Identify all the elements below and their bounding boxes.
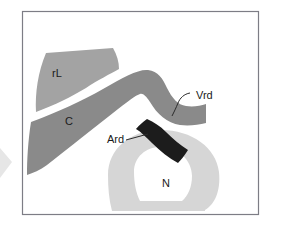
label-C: C [65, 115, 73, 127]
label-Vrd: Vrd [196, 89, 213, 101]
label-rL: rL [52, 67, 62, 79]
figure-panel: rL C Vrd Ard N [0, 0, 283, 231]
canvas-background [0, 0, 283, 231]
label-N: N [162, 177, 170, 189]
label-Ard: Ard [107, 133, 124, 145]
anatomical-schematic-diagram: rL C Vrd Ard N [0, 0, 283, 231]
